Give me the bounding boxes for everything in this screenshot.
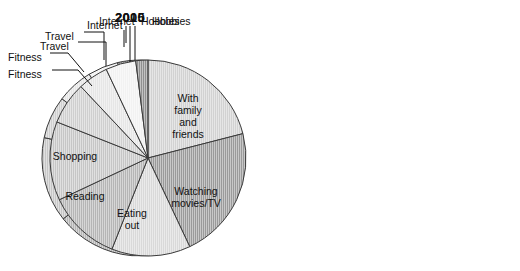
slice-label: Shopping: [53, 150, 98, 162]
outer-label: Travel: [40, 40, 69, 52]
slice-label: Reading: [65, 190, 104, 202]
leader-line: [78, 42, 106, 66]
pie-svg-2010: WithfamilyandfriendsWatchingmovies/TVEat…: [0, 0, 260, 271]
outer-label: Internet: [87, 19, 123, 31]
outer-label: Hobbies: [141, 15, 180, 27]
pie-chart-2010: 2010 WithfamilyandfriendsWatchingmovies/…: [0, 0, 260, 271]
slice-label: Watchingmovies/TV: [171, 185, 221, 209]
outer-label: Fitness: [8, 68, 42, 80]
